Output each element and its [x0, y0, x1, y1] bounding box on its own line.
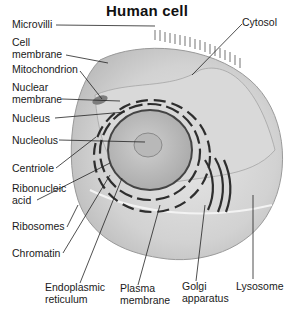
label-nucleolus: Nucleolus	[12, 135, 58, 147]
label-microvilli: Microvilli	[12, 19, 52, 31]
label-cell-membrane-1: Cell	[12, 37, 30, 49]
label-endoplasmic-reticulum-2: reticulum	[45, 294, 88, 306]
label-nucleus: Nucleus	[12, 113, 50, 125]
label-golgi-apparatus-1: Golgi	[182, 281, 207, 293]
label-ribosomes: Ribosomes	[12, 221, 65, 233]
label-ribonucleic-acid-1: Ribonucleic	[12, 183, 66, 195]
cell-illustration	[0, 0, 294, 310]
label-chromatin: Chromatin	[12, 248, 60, 260]
label-nuclear-membrane-2: membrane	[12, 94, 62, 106]
label-ribonucleic-acid-2: acid	[12, 195, 31, 207]
label-lysosome: Lysosome	[236, 281, 283, 293]
label-cell-membrane-2: membrane	[12, 49, 62, 61]
label-plasma-membrane-1: Plasma	[120, 283, 155, 295]
label-endoplasmic-reticulum-1: Endoplasmic	[45, 282, 105, 294]
label-cytosol: Cytosol	[242, 17, 277, 29]
label-centriole: Centriole	[12, 163, 54, 175]
label-nuclear-membrane-1: Nuclear	[12, 82, 48, 94]
label-mitochondrion: Mitochondrion	[12, 64, 78, 76]
label-golgi-apparatus-2: apparatus	[182, 293, 229, 305]
nucleolus	[134, 133, 162, 157]
label-plasma-membrane-2: membrane	[120, 295, 170, 307]
